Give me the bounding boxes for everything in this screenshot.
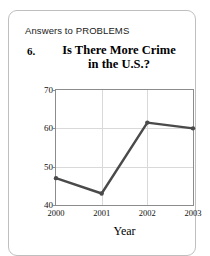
chart-title-line-1: Is There More Crime [49, 43, 189, 57]
y-tick-label: 50 [44, 162, 53, 172]
x-tick-label: 2001 [93, 208, 110, 218]
x-tick-label: 2000 [48, 208, 65, 218]
chart-title: Is There More Crime in the U.S.? [49, 43, 189, 71]
data-point-markers [56, 90, 193, 205]
data-point-marker [191, 126, 195, 130]
worksheet-header-label: Answers to PROBLEMS [25, 25, 129, 36]
problem-number: 6. [27, 45, 35, 57]
data-point-marker [99, 191, 103, 195]
y-tick-label: 60 [44, 123, 53, 133]
answer-card: Answers to PROBLEMS 6. Is There More Cri… [8, 10, 196, 256]
x-tick-label: 2002 [139, 208, 156, 218]
y-tick-label: 70 [44, 85, 53, 95]
data-point-marker [54, 176, 58, 180]
data-point-marker [145, 120, 149, 124]
line-chart: 40506070 2000200120022003 [47, 89, 194, 206]
y-tick-mark [53, 205, 56, 206]
plot-frame: 40506070 2000200120022003 [55, 89, 194, 206]
x-tick-label: 2003 [185, 208, 202, 218]
chart-title-line-2: in the U.S.? [49, 57, 189, 71]
x-axis-title: Year [47, 224, 202, 239]
